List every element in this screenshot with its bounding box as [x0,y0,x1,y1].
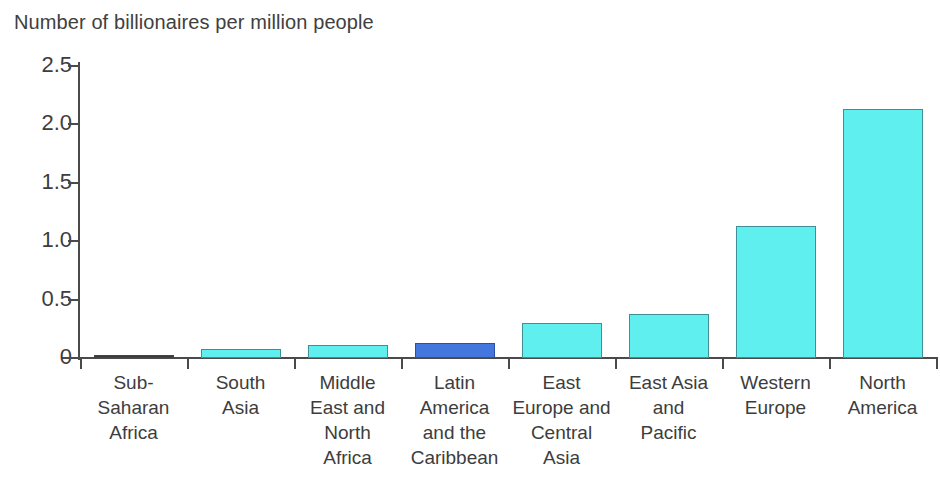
x-axis-tick-mark [80,359,82,369]
bar-2[interactable] [308,345,388,358]
y-axis-tick-mark [68,240,79,242]
y-axis-tick-label: 1.0 [10,227,72,253]
x-axis-label-7: NorthAmerica [823,370,940,420]
y-axis-tick-mark [68,65,79,67]
bar-6[interactable] [736,226,816,358]
x-axis-label-1: SouthAsia [181,370,300,420]
y-axis-tick-mark [68,123,79,125]
x-axis-label-line: East and [288,395,407,420]
x-axis-tick-mark [936,359,938,369]
x-axis-label-line: Asia [181,395,300,420]
x-axis-label-line: Africa [288,445,407,470]
x-axis-tick-mark [294,359,296,369]
x-axis-label-0: Sub-SaharanAfrica [74,370,193,445]
bar-slot [829,58,936,358]
y-axis-tick-label: 2.5 [10,52,72,78]
x-axis-label-5: East AsiaandPacific [609,370,728,445]
bar-1[interactable] [201,349,281,358]
x-axis-label-line: Saharan [74,395,193,420]
bar-0[interactable] [94,355,174,358]
x-axis-label-3: LatinAmericaand theCaribbean [395,370,514,470]
x-axis-labels: Sub-SaharanAfricaSouthAsiaMiddleEast and… [80,370,936,477]
x-axis-label-line: America [823,395,940,420]
bar-slot [80,58,187,358]
x-axis-tick-mark [508,359,510,369]
y-axis-tick-label: 1.5 [10,169,72,195]
x-axis-label-line: Caribbean [395,445,514,470]
x-axis-label-line: Central [502,420,621,445]
x-axis-label-line: Pacific [609,420,728,445]
x-axis-label-line: Middle [288,370,407,395]
x-axis-label-line: Europe [716,395,835,420]
bar-slot [401,58,508,358]
bar-slot [615,58,722,358]
bar-slot [722,58,829,358]
bar-slot [187,58,294,358]
bar-4[interactable] [522,323,602,358]
x-axis-label-line: Europe and [502,395,621,420]
x-axis-tick-mark [722,359,724,369]
x-axis-label-line: America [395,395,514,420]
x-axis-label-line: Africa [74,420,193,445]
x-axis-label-line: North [288,420,407,445]
y-axis-tick-label: 0.5 [10,286,72,312]
y-axis-tick-mark [68,182,79,184]
x-axis-label-line: Western [716,370,835,395]
x-axis-label-6: WesternEurope [716,370,835,420]
x-axis-tick-mark [615,359,617,369]
bar-slot [294,58,401,358]
x-axis-label-line: and the [395,420,514,445]
bar-chart: Number of billionaires per million peopl… [0,0,940,477]
bars-layer [80,58,936,358]
bar-3[interactable] [415,343,495,358]
x-axis-tick-mark [829,359,831,369]
x-axis-tick-mark [401,359,403,369]
x-axis-label-line: Asia [502,445,621,470]
x-axis-tick-mark [187,359,189,369]
bar-7[interactable] [843,109,923,358]
x-axis-label-4: EastEurope andCentralAsia [502,370,621,470]
y-axis-tick-label: 0 [10,344,72,370]
bar-5[interactable] [629,314,709,358]
chart-title: Number of billionaires per million peopl… [14,10,374,34]
x-axis-label-line: South [181,370,300,395]
x-axis-label-line: Sub- [74,370,193,395]
bar-slot [508,58,615,358]
x-axis-label-2: MiddleEast andNorthAfrica [288,370,407,470]
x-axis-label-line: East [502,370,621,395]
x-axis-label-line: and [609,395,728,420]
y-axis-tick-label: 2.0 [10,110,72,136]
x-axis-label-line: Latin [395,370,514,395]
y-axis-tick-mark [68,299,79,301]
x-axis-label-line: North [823,370,940,395]
y-axis-tick-mark [68,357,79,359]
x-axis-label-line: East Asia [609,370,728,395]
